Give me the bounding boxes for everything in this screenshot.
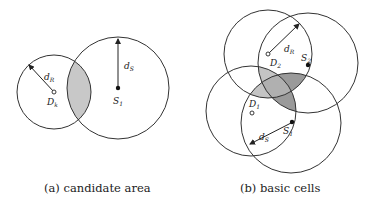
demand-point-Dk (52, 90, 56, 94)
caption-a: (a) candidate area (44, 181, 151, 195)
label-S2: S2 (301, 53, 311, 64)
label-Dk: Dk (46, 97, 58, 108)
supply-point-S1 (290, 120, 294, 124)
label-dR: dR (44, 72, 55, 83)
label-dS: dS (124, 61, 134, 72)
supply-point-S1 (116, 86, 120, 90)
label-dR: dR (284, 44, 295, 55)
demand-point-D1 (250, 111, 254, 115)
diagram-canvas: dR dS Dk S1 dR dS D2 S2 D1 S1 (0, 0, 374, 211)
label-dS: dS (259, 132, 269, 143)
label-S1: S1 (113, 96, 123, 107)
caption-b: (b) basic cells (240, 181, 320, 195)
figure-a: dR dS Dk S1 (17, 37, 169, 139)
label-D2: D2 (269, 58, 281, 69)
figure-b: dR dS D2 S2 D1 S1 (206, 10, 358, 173)
demand-point-D2 (266, 52, 270, 56)
label-S1: S1 (283, 126, 293, 137)
label-D1: D1 (248, 99, 260, 110)
